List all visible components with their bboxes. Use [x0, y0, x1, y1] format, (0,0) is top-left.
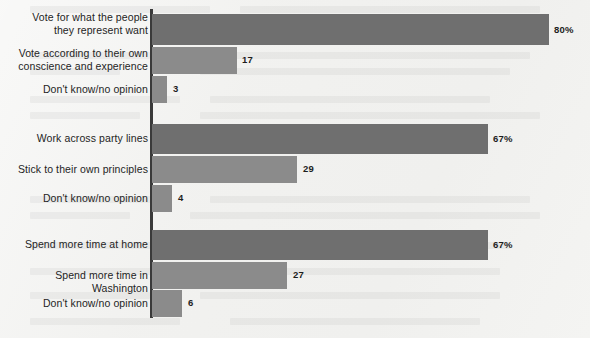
plot-area: Vote for what the people they represent …	[0, 0, 590, 338]
bar-value-8: 27	[293, 270, 304, 280]
category-label-8: Spend more time in Washington	[0, 269, 148, 295]
bar-4	[152, 124, 488, 154]
bar-3	[152, 76, 167, 103]
category-label-7: Spend more time at home	[25, 238, 148, 251]
bar-value-4: 67%	[493, 134, 513, 144]
category-label-2: Vote according to their own conscience a…	[18, 47, 148, 73]
category-label-3: Don't know/no opinion	[43, 83, 148, 96]
bar-chart: Vote for what the people they represent …	[0, 0, 590, 338]
bar-5	[152, 156, 297, 183]
bar-value-1: 80%	[554, 25, 574, 35]
category-label-9: Don't know/no opinion	[43, 297, 148, 310]
bar-value-6: 4	[178, 193, 183, 203]
bar-value-3: 3	[173, 84, 178, 94]
bar-2	[152, 47, 237, 74]
category-label-1: Vote for what the people they represent …	[32, 11, 148, 37]
bar-9	[152, 290, 182, 317]
bar-6	[152, 185, 172, 212]
bar-value-7: 67%	[493, 240, 513, 250]
bar-1	[152, 14, 549, 45]
category-label-5: Stick to their own principles	[18, 163, 148, 176]
bar-7	[152, 230, 488, 260]
bar-value-9: 6	[188, 298, 193, 308]
bar-value-2: 17	[242, 55, 253, 65]
bar-8	[152, 262, 287, 289]
bar-value-5: 29	[303, 164, 314, 174]
category-label-4: Work across party lines	[37, 132, 148, 145]
category-label-6: Don't know/no opinion	[43, 192, 148, 205]
